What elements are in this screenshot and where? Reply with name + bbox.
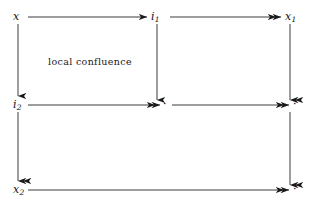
node-bottom-right-dot: ·	[293, 184, 297, 195]
node-bottom-left: x2	[13, 184, 24, 197]
node-top-middle-base: i	[151, 10, 155, 23]
node-top-right-sub: 1	[292, 15, 297, 24]
node-mid-right-dot: ·	[293, 99, 297, 110]
diagram-arrow-canvas	[0, 0, 311, 203]
node-top-left: x	[13, 11, 20, 24]
node-mid-left-sub: 2	[17, 103, 22, 112]
node-mid-middle-dot: ·	[163, 99, 167, 110]
local-confluence-annotation: local confluence	[48, 56, 132, 67]
node-bottom-left-base: x	[13, 183, 19, 196]
node-bottom-left-sub: 2	[20, 188, 25, 197]
node-top-right: x1	[285, 11, 296, 24]
node-top-middle-sub: 1	[155, 15, 160, 24]
node-mid-left-base: i	[13, 98, 17, 111]
node-top-middle: i1	[151, 11, 160, 24]
node-top-right-base: x	[285, 10, 291, 23]
commutative-diagram: x i1 x1 i2 · · x2 · local confluence	[0, 0, 311, 203]
node-top-left-base: x	[13, 10, 19, 23]
node-mid-left: i2	[13, 99, 22, 112]
